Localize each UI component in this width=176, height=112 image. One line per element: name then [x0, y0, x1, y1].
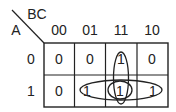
cell-1-01: 1 — [83, 84, 91, 98]
col-header-11: 11 — [114, 23, 129, 37]
col-header-10: 10 — [144, 23, 160, 37]
col-variable-label: BC — [27, 7, 46, 21]
cell-0-10: 0 — [148, 52, 156, 66]
cell-0-01: 0 — [86, 52, 94, 66]
row-variable-label: A — [11, 23, 20, 37]
col-header-00: 00 — [51, 23, 67, 37]
cell-1-00: 0 — [55, 84, 63, 98]
karnaugh-map: BC A 00 01 11 10 0 1 0 0 1 0 0 1 1 1 — [0, 0, 176, 112]
cell-1-10: 1 — [149, 84, 157, 98]
row-header-0: 0 — [27, 52, 35, 66]
cell-0-11: 1 — [117, 52, 125, 66]
col-header-01: 01 — [82, 23, 98, 37]
row-header-1: 1 — [27, 84, 35, 98]
cell-0-00: 0 — [55, 52, 63, 66]
cell-1-11: 1 — [116, 84, 124, 98]
